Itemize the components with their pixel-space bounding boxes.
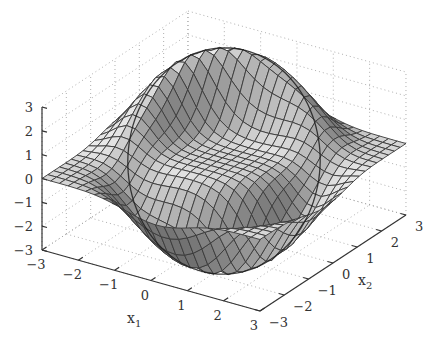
z-tick-label: 1 (25, 148, 33, 163)
x2-axis-label: x2 (358, 272, 372, 291)
x2-tick-label: 1 (366, 251, 374, 266)
x2-tick-label: 2 (391, 235, 399, 250)
x2-tick-label: 0 (342, 267, 350, 282)
x1-tick-label: 3 (250, 318, 258, 333)
surface-mesh (42, 48, 406, 275)
x1-tick-label: −2 (63, 267, 82, 282)
x1-tick-label: −3 (26, 257, 45, 272)
x1-tick-label: −1 (99, 277, 118, 292)
x2-tick-label: 3 (415, 219, 423, 234)
x2-tick-label: −2 (293, 299, 312, 314)
surface-plot: 3210−1−2−3−3−2−10123−3−2−10123 x1 x2 (0, 0, 438, 341)
z-tick-label: 0 (25, 172, 33, 187)
z-tick-label: 2 (25, 124, 33, 139)
x2-tick-label: −1 (318, 283, 337, 298)
z-tick-label: −2 (14, 219, 33, 234)
surface-plot-figure: 3210−1−2−3−3−2−10123−3−2−10123 x1 x2 (0, 0, 438, 341)
x1-tick-label: 0 (141, 288, 149, 303)
z-tick-label: −3 (14, 243, 33, 258)
x1-tick-label: 1 (177, 298, 185, 313)
z-tick-label: −1 (14, 195, 33, 210)
x1-axis-label: x1 (127, 310, 141, 329)
x1-tick-label: 2 (214, 308, 222, 323)
x2-tick-label: −3 (269, 315, 288, 330)
z-tick-label: 3 (25, 100, 33, 115)
